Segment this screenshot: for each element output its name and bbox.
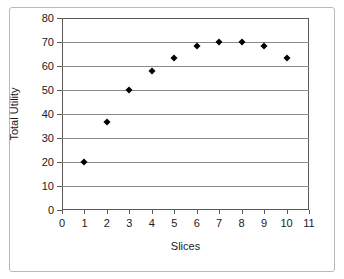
gridline (62, 90, 309, 91)
x-axis-tick-label: 9 (261, 217, 267, 229)
plot-area: 01020304050607080 01234567891011 (62, 18, 309, 210)
x-axis-tick (242, 210, 243, 214)
y-axis-tick (57, 186, 62, 187)
data-point (216, 38, 223, 45)
x-axis-tick-label: 3 (126, 217, 132, 229)
x-axis-title: Slices (62, 240, 309, 252)
y-axis-tick-label: 30 (42, 132, 54, 144)
x-axis-tick (107, 210, 108, 214)
x-axis-tick-label: 2 (104, 217, 110, 229)
data-point (126, 86, 133, 93)
x-axis-tick (129, 210, 130, 214)
x-axis-tick (174, 210, 175, 214)
x-axis-tick-label: 8 (239, 217, 245, 229)
x-axis-tick (309, 210, 310, 214)
x-axis-tick-label: 7 (216, 217, 222, 229)
y-axis-tick-label: 40 (42, 108, 54, 120)
chart-figure: 01020304050607080 01234567891011 Total U… (0, 0, 344, 279)
x-axis-tick (264, 210, 265, 214)
data-point (261, 43, 268, 50)
data-point (103, 119, 110, 126)
y-axis-tick (57, 42, 62, 43)
x-axis-tick (84, 210, 85, 214)
data-point (148, 67, 155, 74)
y-axis-tick-label: 20 (42, 156, 54, 168)
data-point (193, 43, 200, 50)
y-axis-tick (57, 114, 62, 115)
gridline (62, 114, 309, 115)
x-axis-tick-label: 0 (59, 217, 65, 229)
x-axis-tick (287, 210, 288, 214)
gridline (62, 66, 309, 67)
x-axis-tick-label: 11 (303, 217, 314, 229)
y-axis-tick-label: 80 (42, 12, 54, 24)
data-point (238, 38, 245, 45)
y-axis-tick (57, 66, 62, 67)
data-point (283, 54, 290, 61)
y-axis-tick-label: 50 (42, 84, 54, 96)
y-axis-tick-label: 0 (48, 204, 54, 216)
x-axis-tick (219, 210, 220, 214)
x-axis-tick-label: 6 (194, 217, 200, 229)
y-axis-tick-label: 60 (42, 60, 54, 72)
x-axis-tick (62, 210, 63, 214)
data-point (171, 54, 178, 61)
gridline (62, 42, 309, 43)
y-axis-tick-label: 10 (42, 180, 54, 192)
y-axis-tick-label: 70 (42, 36, 54, 48)
x-axis-tick-label: 10 (280, 217, 292, 229)
x-axis-tick-label: 4 (149, 217, 155, 229)
y-axis-tick (57, 162, 62, 163)
data-point (81, 158, 88, 165)
x-axis-tick (152, 210, 153, 214)
y-axis-title: Total Utility (8, 87, 20, 140)
y-axis-tick (57, 90, 62, 91)
x-axis-tick-label: 1 (81, 217, 87, 229)
gridline (62, 138, 309, 139)
x-axis-tick-label: 5 (171, 217, 177, 229)
gridline (62, 186, 309, 187)
gridline (62, 162, 309, 163)
x-axis-tick (197, 210, 198, 214)
y-axis-tick (57, 138, 62, 139)
y-axis-tick (57, 18, 62, 19)
